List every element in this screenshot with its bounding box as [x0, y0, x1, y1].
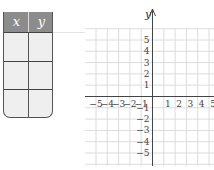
- y-axis-label: y: [144, 8, 152, 21]
- x-tick-label: 1: [165, 99, 171, 109]
- y-tick-label: −4: [136, 137, 150, 147]
- y-tick-label: 4: [144, 46, 150, 56]
- y-tick-label: −2: [136, 114, 149, 124]
- coordinate-grid[interactable]: y −5−4−3−2−11234554321−1−2−3−4−5: [0, 0, 214, 170]
- x-tick-label: 4: [199, 99, 205, 109]
- x-tick-label: 2: [176, 99, 182, 109]
- y-tick-label: −1: [136, 103, 149, 113]
- y-tick-label: 2: [144, 69, 150, 79]
- y-tick-label: 5: [144, 35, 150, 45]
- y-tick-label: −3: [136, 125, 150, 135]
- y-tick-label: −5: [136, 148, 150, 158]
- y-tick-label: 1: [144, 80, 150, 90]
- x-tick-label: 5: [210, 99, 214, 109]
- x-tick-label: 3: [188, 99, 194, 109]
- y-tick-label: 3: [144, 58, 150, 68]
